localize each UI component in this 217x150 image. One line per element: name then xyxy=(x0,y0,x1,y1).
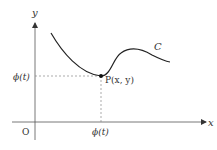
y-tick-label: ϕ(t) xyxy=(13,72,30,82)
curve-label: C xyxy=(154,41,162,52)
x-tick-label: ϕ(t) xyxy=(92,127,109,137)
diagram-canvas: y x O C P(x, y) ϕ(t) ϕ(t) xyxy=(0,0,217,150)
y-axis-label: y xyxy=(31,7,38,18)
point-p xyxy=(99,74,103,78)
point-label: P(x, y) xyxy=(105,75,134,85)
x-axis-label: x xyxy=(208,117,214,128)
curve-c xyxy=(51,33,170,76)
origin-label: O xyxy=(22,127,29,137)
